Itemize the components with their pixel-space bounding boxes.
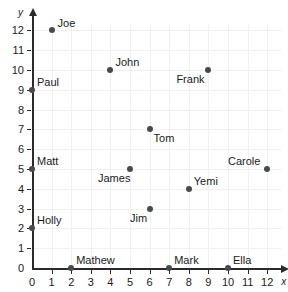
data-point [186,186,192,192]
y-tick-label: 2 [2,223,24,234]
data-point [68,265,74,271]
data-point-label: Frank [176,74,204,85]
x-tick [248,270,249,274]
data-point-label: Paul [37,77,59,88]
y-tick [27,110,31,111]
x-tick [110,270,111,274]
y-tick-label: 12 [2,25,24,36]
data-point-label: Mathew [76,255,115,266]
data-point-label: Jim [130,213,147,224]
y-tick [27,189,31,190]
y-tick [27,248,31,249]
data-point-label: Carole [228,156,260,167]
x-tick-label: 1 [42,277,62,288]
data-point-label: James [98,173,130,184]
x-tick-label: 2 [61,277,81,288]
y-axis-arrowhead [29,8,37,16]
data-point-label: Yemi [194,176,218,187]
y-axis-label: y [18,8,23,18]
gridline-horizontal [32,129,281,130]
data-point-label: Matt [37,156,58,167]
y-tick-label: 11 [2,45,24,56]
y-tick [27,70,31,71]
gridline-horizontal [32,110,281,111]
data-point [225,265,231,271]
gridline-vertical [169,24,170,268]
y-tick-label: 3 [2,204,24,215]
x-axis-arrowhead [281,265,288,273]
x-tick [208,270,209,274]
gridline-horizontal [32,30,281,31]
y-tick [27,50,31,51]
y-tick [27,209,31,210]
gridline-horizontal [32,169,281,170]
scatter-plot: xy 01234567891011120123456789101112 JoeP… [0,0,288,292]
data-point [264,166,270,172]
gridline-vertical [267,24,268,268]
gridline-horizontal [32,209,281,210]
gridline-vertical [91,24,92,268]
gridline-horizontal [32,248,281,249]
x-tick [52,270,53,274]
gridline-vertical [110,24,111,268]
data-point-label: Holly [37,215,61,226]
gridline-vertical [208,24,209,268]
data-point-label: Tom [154,133,175,144]
data-point-label: Joe [58,18,76,29]
x-tick [91,270,92,274]
gridline-horizontal [32,50,281,51]
x-tick-label: 8 [179,277,199,288]
y-tick-label: 8 [2,105,24,116]
data-point [29,225,35,231]
x-tick-label: 12 [257,277,277,288]
x-tick-label: 4 [100,277,120,288]
x-tick-label: 11 [238,277,258,288]
data-point [29,87,35,93]
data-point [107,67,113,73]
y-tick-label: 4 [2,184,24,195]
data-point [147,126,153,132]
y-tick-label: 0 [2,263,24,274]
y-tick [27,30,31,31]
gridline-vertical [52,24,53,268]
x-tick-label: 7 [159,277,179,288]
y-tick-label: 9 [2,85,24,96]
x-tick [267,270,268,274]
data-point [147,206,153,212]
x-tick-label: 0 [22,277,42,288]
x-axis-label: x [281,277,286,287]
gridline-horizontal [32,189,281,190]
x-tick-label: 6 [140,277,160,288]
y-tick-label: 1 [2,243,24,254]
data-point [205,67,211,73]
x-tick [189,270,190,274]
x-tick-label: 9 [198,277,218,288]
data-point-label: John [115,57,139,68]
gridline-horizontal [32,228,281,229]
data-point [29,166,35,172]
gridline-vertical [248,24,249,268]
gridline-horizontal [32,70,281,71]
data-point-label: Ella [233,255,251,266]
gridline-vertical [150,24,151,268]
gridline-vertical [189,24,190,268]
x-tick-label: 3 [81,277,101,288]
gridline-horizontal [32,90,281,91]
x-tick-label: 10 [218,277,238,288]
gridline-vertical [228,24,229,268]
y-tick [27,149,31,150]
data-point-label: Mark [174,255,198,266]
y-tick-label: 10 [2,65,24,76]
data-point [166,265,172,271]
data-point [49,27,55,33]
y-tick-label: 7 [2,124,24,135]
gridline-vertical [71,24,72,268]
y-tick-label: 5 [2,164,24,175]
gridline-horizontal [32,149,281,150]
x-tick [130,270,131,274]
x-tick [150,270,151,274]
y-tick [27,129,31,130]
x-tick-label: 5 [120,277,140,288]
y-tick-label: 6 [2,144,24,155]
